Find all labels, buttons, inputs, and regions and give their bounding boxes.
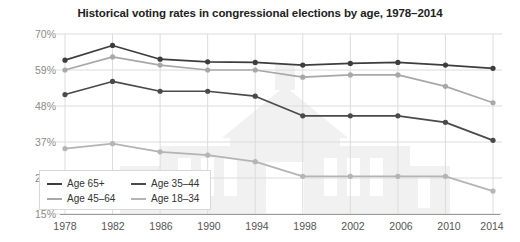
y-tick-label: 48%: [2, 100, 56, 112]
chart-title: Historical voting rates in congressional…: [0, 7, 520, 19]
legend-row: Age 65+ Age 35–44: [47, 176, 204, 191]
legend-label: Age 18–34: [151, 193, 199, 204]
y-tick-label: 70%: [2, 28, 56, 40]
legend-swatch-icon: [131, 183, 146, 185]
legend-swatch-icon: [131, 198, 146, 200]
legend-swatch-icon: [47, 198, 62, 200]
chart-container: Historical voting rates in congressional…: [0, 0, 520, 242]
legend-label: Age 65+: [67, 178, 105, 189]
legend-swatch-icon: [47, 183, 62, 185]
y-tick-label: 37%: [2, 136, 56, 148]
legend-row: Age 45–64 Age 18–34: [47, 191, 204, 206]
legend-item-age-18-34[interactable]: Age 18–34: [131, 193, 199, 204]
legend-item-age-65-plus[interactable]: Age 65+: [47, 178, 131, 189]
chart-legend: Age 65+ Age 35–44 Age 45–64 Age 18–34: [39, 170, 211, 210]
legend-label: Age 35–44: [151, 178, 199, 189]
x-tick-label: 2014: [462, 220, 520, 232]
legend-item-age-45-64[interactable]: Age 45–64: [47, 193, 131, 204]
legend-item-age-35-44[interactable]: Age 35–44: [131, 178, 199, 189]
legend-label: Age 45–64: [67, 193, 115, 204]
x-axis-line: [60, 214, 500, 215]
y-tick-label: 59%: [2, 64, 56, 76]
